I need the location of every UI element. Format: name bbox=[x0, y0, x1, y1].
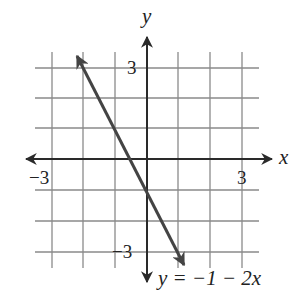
equation-label: y = −1 − 2x bbox=[158, 268, 261, 289]
y-tick-label-neg3: −3 bbox=[112, 242, 132, 261]
coordinate-plane bbox=[0, 0, 303, 307]
x-axis-label: x bbox=[279, 147, 288, 168]
y-tick-label-3: 3 bbox=[127, 58, 137, 77]
x-tick-label-3: 3 bbox=[237, 168, 247, 187]
x-tick-label-neg3: −3 bbox=[29, 168, 49, 187]
graph-line-y-equals-neg1-minus-2x bbox=[77, 56, 184, 265]
y-axis-label: y bbox=[142, 6, 151, 27]
